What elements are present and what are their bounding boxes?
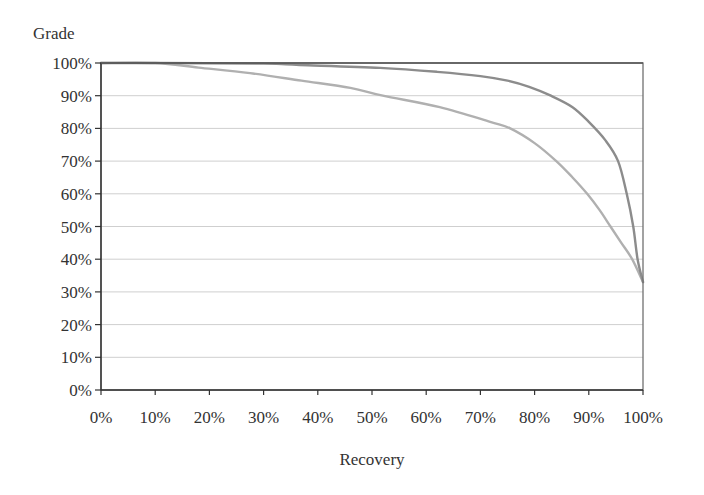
y-tick-label: 10% bbox=[61, 348, 92, 367]
x-tick-label: 80% bbox=[519, 408, 550, 427]
grade-recovery-chart: 0%10%20%30%40%50%60%70%80%90%100% 0%10%2… bbox=[0, 0, 704, 495]
x-tick-label: 10% bbox=[140, 408, 171, 427]
y-tick-label: 60% bbox=[61, 185, 92, 204]
x-axis-title: Recovery bbox=[339, 450, 405, 469]
y-tick-label: 30% bbox=[61, 283, 92, 302]
y-tick-label: 90% bbox=[61, 87, 92, 106]
x-tick-label: 40% bbox=[302, 408, 333, 427]
x-tick-label: 100% bbox=[623, 408, 663, 427]
x-tick-label: 60% bbox=[411, 408, 442, 427]
y-tick-label: 100% bbox=[52, 54, 92, 73]
y-tick-label: 0% bbox=[69, 381, 92, 400]
x-tick-label: 30% bbox=[248, 408, 279, 427]
x-tick-label: 90% bbox=[573, 408, 604, 427]
axes bbox=[95, 63, 643, 395]
y-tick-label: 70% bbox=[61, 152, 92, 171]
gridlines bbox=[101, 96, 643, 358]
y-tick-label: 40% bbox=[61, 250, 92, 269]
y-tick-label: 80% bbox=[61, 119, 92, 138]
x-tick-labels: 0%10%20%30%40%50%60%70%80%90%100% bbox=[90, 408, 663, 427]
x-tick-label: 50% bbox=[356, 408, 387, 427]
y-tick-label: 20% bbox=[61, 316, 92, 335]
x-tick-label: 0% bbox=[90, 408, 113, 427]
y-tick-labels: 0%10%20%30%40%50%60%70%80%90%100% bbox=[52, 54, 92, 400]
x-tick-label: 20% bbox=[194, 408, 225, 427]
y-axis-title: Grade bbox=[33, 24, 75, 43]
x-tick-label: 70% bbox=[465, 408, 496, 427]
y-tick-label: 50% bbox=[61, 218, 92, 237]
